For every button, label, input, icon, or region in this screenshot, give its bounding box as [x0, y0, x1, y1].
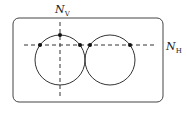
intersection-point	[78, 43, 82, 47]
diagram-canvas	[0, 0, 187, 115]
label-nh-sub: H	[176, 47, 182, 55]
label-nv-main: N	[55, 3, 65, 16]
label-nh-main: N	[166, 40, 176, 53]
right-circle	[85, 35, 135, 85]
intersection-point	[128, 43, 132, 47]
intersection-point	[38, 43, 42, 47]
intersection-point	[58, 33, 62, 37]
intersection-point	[88, 43, 92, 47]
label-nv: NV	[55, 3, 70, 18]
label-nv-sub: V	[65, 10, 70, 18]
label-nh: NH	[166, 40, 182, 55]
